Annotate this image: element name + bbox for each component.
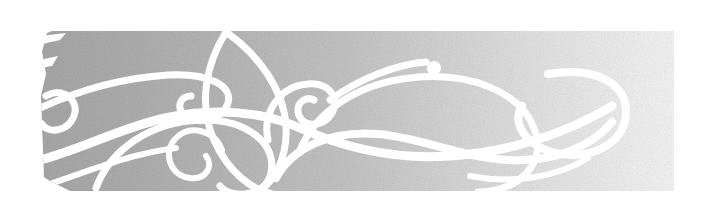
gradient-band <box>38 31 674 191</box>
decorative-banner <box>0 0 701 208</box>
banner-artwork <box>0 0 701 208</box>
band-shape <box>41 31 674 191</box>
ball-terminal-dot <box>427 61 441 75</box>
